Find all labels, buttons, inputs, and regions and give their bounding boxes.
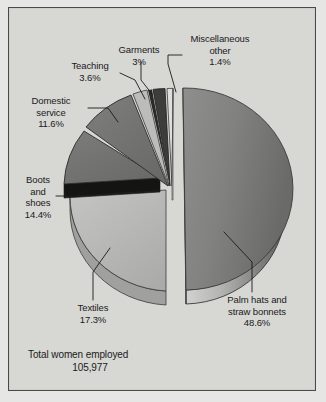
label-boots-and-shoes: Boots and shoes 14.4% [12,174,64,220]
label-garments-name: Garments [119,44,160,55]
label-misc-pct: 1.4% [209,56,230,67]
label-boots-name-line2: and [30,186,46,197]
label-textiles: Textiles 17.3% [62,302,124,325]
label-garments: Garments 3% [108,44,170,67]
total-caption: Total women employed [28,349,128,360]
label-textiles-pct: 17.3% [80,314,106,325]
slice-textiles [70,190,166,305]
pie-chart: Teaching 3.6% Garments 3% Miscellaneous … [0,0,326,402]
label-misc-name-line2: other [209,45,230,56]
label-garments-pct: 3% [132,56,146,67]
label-boots-pct: 14.4% [25,209,51,220]
total-women-employed: Total women employed 105,977 [28,348,178,374]
label-palm-pct: 48.6% [244,317,270,328]
label-palm-name-line2: straw bonnets [228,306,286,317]
label-boots-name-line3: shoes [26,197,51,208]
label-domestic-service: Domestic service 11.6% [16,95,86,130]
label-teaching-pct: 3.6% [79,72,100,83]
label-domestic-name-line1: Domestic [32,95,71,106]
leader-misc [168,55,182,92]
label-boots-name-line1: Boots [26,174,50,185]
label-miscellaneous-other: Miscellaneous other 1.4% [182,33,258,68]
total-value: 105,977 [28,361,152,374]
label-palm-name-line1: Palm hats and [227,294,286,305]
chart-page: Teaching 3.6% Garments 3% Miscellaneous … [0,0,326,402]
label-textiles-name: Textiles [78,302,109,313]
label-teaching-name: Teaching [71,60,108,71]
slice-palm-hats-and-straw-bonnets [183,88,293,304]
label-domestic-pct: 11.6% [38,118,64,129]
label-domestic-name-line2: service [36,107,65,118]
label-misc-name-line1: Miscellaneous [191,33,250,44]
label-palm-hats-and-straw-bonnets: Palm hats and straw bonnets 48.6% [205,294,309,329]
